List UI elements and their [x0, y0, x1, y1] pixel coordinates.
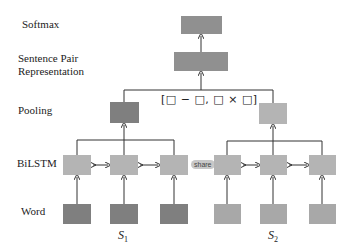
word-box-s1-2 — [110, 204, 138, 224]
pooling-box-s1 — [110, 102, 139, 123]
word-box-s1-1 — [63, 204, 91, 224]
word-box-s2-3 — [309, 204, 336, 224]
pooling-box-s2 — [259, 103, 287, 124]
combination-formula: [□ − □, □ × □] — [161, 93, 258, 106]
bilstm-box-s2-2 — [260, 155, 287, 175]
sentence-label-s1: S1 — [118, 228, 128, 244]
word-box-s1-3 — [160, 204, 188, 224]
word-box-s2-1 — [214, 204, 241, 224]
softmax-box — [181, 16, 222, 34]
bilstm-box-s2-3 — [309, 155, 336, 175]
sentence-s1-subscript: 1 — [124, 235, 128, 244]
bilstm-box-s1-3 — [160, 155, 188, 175]
sentence-s2-subscript: 2 — [274, 235, 278, 244]
bilstm-box-s2-1 — [214, 155, 241, 175]
bilstm-box-s1-1 — [63, 155, 91, 175]
sentence-pair-box — [174, 52, 228, 71]
word-box-s2-2 — [260, 204, 287, 224]
share-badge: share — [191, 160, 215, 169]
sentence-label-s2: S2 — [268, 228, 278, 244]
bilstm-box-s1-2 — [110, 155, 138, 175]
